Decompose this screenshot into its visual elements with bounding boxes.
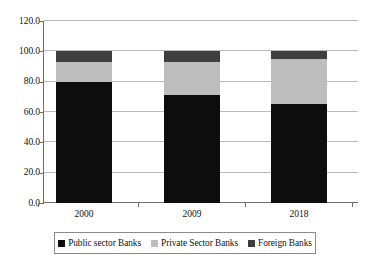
x-axis-tick-mark: [138, 203, 139, 207]
bar-segment-private-sector-banks: [164, 62, 220, 95]
x-axis-tick-label: 2009: [152, 209, 232, 219]
legend-label: Public sector Banks: [68, 238, 141, 248]
chart-legend: Public sector BanksPrivate Sector BanksF…: [54, 232, 316, 254]
legend-label: Foreign Banks: [258, 238, 312, 248]
y-axis-tick-label: 40.0: [0, 138, 40, 148]
y-axis-tick-label: 20.0: [0, 168, 40, 178]
bar-segment-public-sector-banks: [271, 104, 327, 203]
bar-segment-private-sector-banks: [271, 59, 327, 104]
bar-segment-private-sector-banks: [56, 62, 112, 82]
legend-item[interactable]: Private Sector Banks: [151, 238, 238, 248]
legend-swatch-icon: [151, 240, 158, 247]
legend-item[interactable]: Public sector Banks: [58, 238, 141, 248]
x-axis-tick-mark: [38, 203, 39, 207]
y-axis-tick-label: 80.0: [0, 77, 40, 87]
y-axis-tick-mark: [39, 203, 44, 204]
x-axis-tick-mark: [245, 203, 246, 207]
y-axis-tick-mark: [39, 51, 44, 52]
y-axis-tick-label: 60.0: [0, 108, 40, 118]
x-axis-tick-label: 2018: [259, 209, 339, 219]
bar-segment-foreign-banks: [271, 51, 327, 59]
y-axis-tick-mark: [39, 82, 44, 83]
legend-swatch-icon: [248, 240, 255, 247]
y-axis-tick-label: 0.0: [0, 199, 40, 209]
y-axis-tick-mark: [39, 112, 44, 113]
bar-segment-foreign-banks: [164, 51, 220, 62]
legend-label: Private Sector Banks: [161, 238, 238, 248]
bar-segment-public-sector-banks: [56, 82, 112, 203]
y-axis-tick-mark: [39, 21, 44, 22]
y-axis-tick-label: 120.0: [0, 17, 40, 27]
bar-group: [56, 21, 112, 203]
x-axis-tick-mark: [352, 203, 353, 207]
legend-item[interactable]: Foreign Banks: [248, 238, 312, 248]
bar-group: [164, 21, 220, 203]
legend-swatch-icon: [58, 240, 65, 247]
stacked-bar-chart: 120.0100.080.060.040.020.00.0 2000200920…: [0, 0, 370, 267]
x-axis-tick-label: 2000: [44, 209, 124, 219]
bar-group: [271, 21, 327, 203]
bar-segment-foreign-banks: [56, 51, 112, 62]
y-axis-tick-mark: [39, 142, 44, 143]
y-axis-labels: 120.0100.080.060.040.020.00.0: [0, 21, 40, 203]
y-axis-tick-mark: [39, 173, 44, 174]
plot-area: [44, 21, 358, 203]
bar-segment-public-sector-banks: [164, 95, 220, 203]
y-axis-tick-label: 100.0: [0, 47, 40, 57]
